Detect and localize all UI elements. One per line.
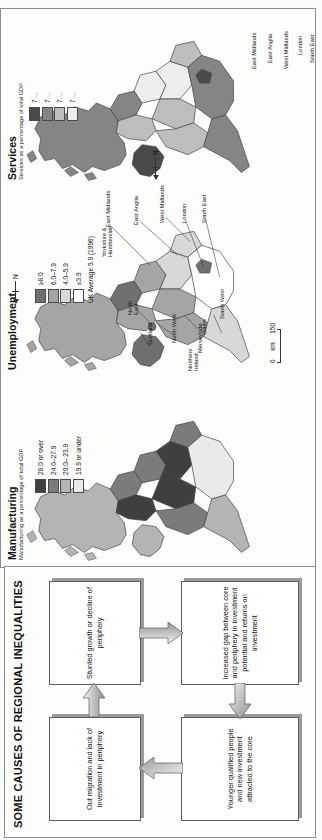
region-label-london: London — [297, 36, 303, 55]
legend-swatch — [42, 107, 53, 121]
legend-swatch — [73, 479, 84, 493]
legend-row: ≤3.9 — [73, 236, 84, 303]
legend-label: 7… — [56, 93, 63, 103]
region-label-north-east: North East — [127, 295, 140, 315]
legend-swatch — [73, 289, 84, 303]
map-panel-services: Services Services as a percentage of tot… — [1, 7, 315, 187]
legend-swatch — [60, 289, 71, 303]
legend-swatch — [35, 479, 46, 493]
scale-label-min: 0 — [269, 359, 276, 363]
legend-label: 7… — [44, 93, 51, 103]
north-arrow-icon: N — [151, 150, 159, 179]
arrow-out-migration-to-stunted-growth — [83, 683, 105, 717]
legend-row: 20.0– 23.9 — [60, 436, 71, 493]
flow-box-increased-gap: Increased gap between core and periphery… — [181, 581, 299, 685]
scale-bar: 0 km 150 — [269, 323, 281, 363]
diagram-title: SOME CAUSES OF REGIONAL INEQUALITIES — [12, 578, 25, 828]
legend-swatch — [35, 289, 46, 303]
legend-row: ≥8.0 — [35, 236, 46, 303]
flow-box-younger-qualified: Younger qualified people and new investm… — [181, 717, 299, 821]
arrow-increased-gap-to-younger-qualified — [229, 683, 251, 719]
arrow-stunted-growth-to-increased-gap — [139, 622, 183, 644]
legend-label: 7… — [31, 93, 38, 103]
legend-row: 28.0 or over — [35, 436, 46, 493]
north-arrow-icon: N — [11, 274, 19, 303]
legend-label: 28.0 or over — [37, 440, 44, 475]
legend-row: 19.9 or under — [73, 436, 84, 493]
flow-box-out-migration: Out migration and lack of investment in … — [49, 717, 141, 821]
legend-label: 19.9 or under — [75, 436, 82, 475]
arrow-younger-qualified-to-out-migration — [139, 757, 183, 779]
legend-swatch — [60, 479, 71, 493]
legend-label: 6.0–7.9 — [50, 263, 57, 285]
legend-label: ≥8.0 — [37, 272, 44, 285]
legend-unemployment: ≥8.0 6.0–7.9 4.0–5.9 ≤3.9 UK Average 5.9… — [35, 236, 94, 303]
legend-row: 7… — [67, 93, 78, 121]
region-label-wales: Wales — [201, 319, 207, 335]
legend-label: 4.0–5.9 — [62, 263, 69, 285]
legend-services: 7… 7… 7… 7… — [29, 93, 79, 121]
maps-figure: Manufacturing Manufacturing as a percent… — [0, 8, 316, 568]
region-label-east-anglia: East Anglia — [133, 196, 139, 225]
legend-row: 7… — [42, 93, 53, 121]
legend-label: 7… — [69, 93, 76, 103]
region-label-east-midlands: East Midlands — [105, 191, 111, 227]
legend-label: 20.0– 23.9 — [62, 444, 69, 475]
scanned-page: Manufacturing Manufacturing as a percent… — [0, 0, 322, 840]
map-panel-manufacturing: Manufacturing Manufacturing as a percent… — [1, 377, 315, 567]
region-label-west-midlands: West Midlands — [159, 185, 165, 223]
legend-label: 24.0–27.9 — [50, 446, 57, 475]
region-label-south-east: South East — [309, 35, 315, 63]
legend-swatch — [48, 479, 59, 493]
legend-manufacturing: 28.0 or over 24.0–27.9 20.0– 23.9 19.9 o… — [35, 436, 85, 493]
legend-row: 4.0–5.9 — [60, 236, 71, 303]
region-label-north-west: North West — [171, 314, 177, 343]
legend-label: ≤3.9 — [75, 272, 82, 285]
scale-bar-line — [277, 329, 281, 363]
legend-swatch — [29, 107, 40, 121]
region-label-london: London — [181, 204, 187, 223]
scale-label-unit: km — [269, 342, 276, 351]
region-label-east-midlands: East Midlands — [251, 33, 257, 69]
map-panel-unemployment: Unemployment — [1, 187, 315, 377]
region-label-south-east: South East — [201, 195, 207, 223]
scale-label-max: 150 — [269, 323, 276, 334]
flow-box-stunted-growth: Stunted growth or decline of periphery — [49, 581, 141, 685]
legend-row: 7… — [29, 93, 40, 121]
region-label-west-midlands: West Midlands — [283, 31, 289, 69]
legend-swatch — [54, 107, 65, 121]
legend-row: 7… — [54, 93, 65, 121]
region-label-east-anglia: East Anglia — [267, 34, 273, 63]
legend-row: 24.0–27.9 — [48, 436, 59, 493]
flow-diagram-figure: SOME CAUSES OF REGIONAL INEQUALITIES Out… — [4, 566, 316, 838]
legend-row: 6.0–7.9 — [48, 236, 59, 303]
legend-note-uk-average: UK Average 5.9 (1996) — [87, 236, 95, 303]
legend-swatch — [48, 289, 59, 303]
region-label-scotland: Scotland — [147, 322, 153, 345]
legend-swatch — [67, 107, 78, 121]
region-label-south-west: South West — [219, 289, 225, 319]
